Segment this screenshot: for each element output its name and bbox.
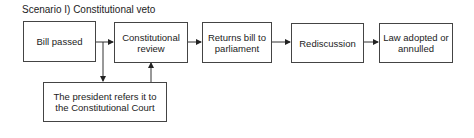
node-constitutional-review: Constitutional review bbox=[114, 22, 188, 63]
node-law-adopted: Law adopted or annulled bbox=[379, 23, 453, 63]
node-returns-bill: Returns bill to parliament bbox=[202, 22, 272, 63]
node-president-refers: The president refers it to the Constitut… bbox=[43, 82, 167, 122]
node-bill-passed: Bill passed bbox=[23, 21, 96, 62]
node-rediscussion: Rediscussion bbox=[291, 23, 364, 63]
